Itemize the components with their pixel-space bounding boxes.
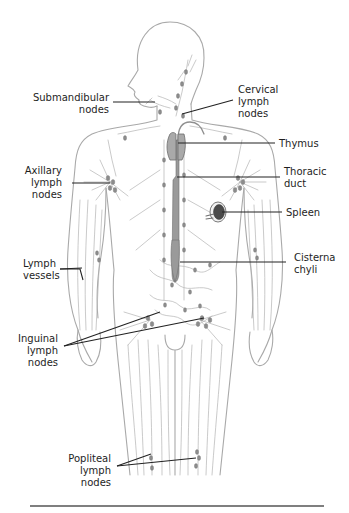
label-spleen: Spleen — [286, 207, 320, 218]
hand-right — [249, 330, 273, 366]
label-cervical-2: lymph — [238, 96, 269, 107]
label-inguinal-2: lymph — [27, 345, 58, 356]
hand-left — [77, 330, 101, 366]
lymph-node — [150, 466, 153, 471]
lymph-node — [195, 450, 198, 455]
lymph-node — [158, 110, 161, 115]
label-axillary-2: lymph — [31, 177, 62, 188]
lymph-node — [123, 136, 126, 141]
leader-inguinal-left — [64, 312, 160, 346]
lymph-node — [241, 179, 245, 184]
label-submandibular-1: Submandibular — [33, 92, 110, 103]
label-popliteal-3: nodes — [81, 477, 111, 488]
label-cisterna-1: Cisterna — [294, 252, 335, 263]
label-inguinal-1: Inguinal — [18, 333, 58, 344]
lymph-node — [204, 323, 208, 328]
label-popliteal-2: lymph — [80, 465, 111, 476]
lymph-node — [209, 263, 212, 268]
label-axillary-3: nodes — [32, 189, 62, 200]
lymph-node — [98, 258, 101, 263]
label-popliteal-1: Popliteal — [68, 453, 111, 464]
lymph-node — [171, 283, 174, 288]
thymus — [167, 133, 185, 161]
lymph-node — [108, 185, 112, 190]
lymph-node — [150, 321, 154, 326]
lymph-node — [223, 136, 226, 141]
label-axillary-1: Axillary — [25, 165, 62, 176]
lymph-node — [189, 290, 192, 295]
label-lymph-vessels-2: vessels — [23, 270, 60, 281]
lymph-node — [113, 187, 117, 192]
lymph-node — [208, 317, 212, 322]
lymph-node — [256, 256, 259, 261]
label-thoracic-2: duct — [284, 178, 306, 189]
lymph-node — [111, 179, 115, 184]
lymph-node — [163, 258, 166, 263]
label-submandibular-2: nodes — [79, 104, 109, 115]
label-cervical-3: nodes — [238, 108, 268, 119]
leader-inguinal-right — [64, 318, 204, 346]
lymph-node — [183, 198, 186, 203]
lymph-node — [236, 175, 240, 180]
label-thoracic-1: Thoracic — [283, 166, 327, 177]
lymph-node — [164, 303, 167, 308]
lymph-node — [196, 321, 200, 326]
label-thymus: Thymus — [278, 138, 319, 149]
lymph-node — [174, 106, 177, 111]
lymph-node — [184, 308, 187, 313]
label-lymph-vessels-1: Lymph — [23, 258, 56, 269]
lymph-node — [183, 248, 186, 253]
lymph-node — [197, 456, 200, 461]
inner-arm-right — [244, 188, 253, 318]
lymph-node — [163, 233, 166, 238]
lymph-node — [233, 187, 237, 192]
leader-lymph-vessels — [60, 269, 83, 280]
lymph-node — [181, 114, 184, 119]
lymph-node — [254, 248, 257, 253]
label-cisterna-2: chyli — [294, 264, 317, 275]
lymph-node — [163, 183, 166, 188]
lymph-node — [199, 304, 202, 309]
head-outline — [128, 22, 204, 107]
label-cervical-1: Cervical — [238, 84, 278, 95]
label-inguinal-3: nodes — [28, 357, 58, 368]
lymph-node — [194, 268, 197, 273]
lymphatic-system-diagram: Submandibular nodes Cervical lymph nodes… — [0, 0, 349, 513]
lymph-node — [194, 464, 197, 469]
lymph-node — [176, 94, 179, 99]
lymph-node — [106, 175, 110, 180]
lymph-node — [238, 185, 242, 190]
lymph-node — [180, 82, 183, 87]
lymph-node — [149, 456, 152, 461]
lymph-node — [163, 158, 166, 163]
lymph-node — [184, 70, 187, 75]
lymph-node — [143, 323, 147, 328]
lymph-node — [183, 223, 186, 228]
lymph-node — [163, 208, 166, 213]
leader-cervical — [182, 100, 233, 114]
lymph-node — [96, 251, 99, 256]
organs — [167, 122, 226, 282]
